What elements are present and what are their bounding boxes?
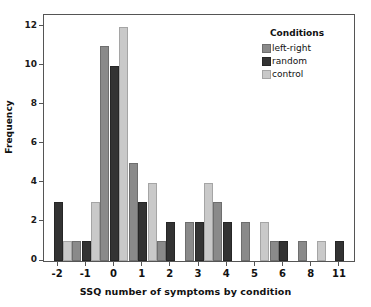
bar-left-right-4: [213, 202, 222, 261]
x-tick-label: 1: [128, 268, 156, 279]
histogram-figure: Frequency 024681012 -2-10123456811 SSQ n…: [0, 0, 371, 307]
bar-left-right-2: [157, 241, 166, 261]
x-tick-label: -2: [43, 268, 71, 279]
y-tick-label: 2: [31, 215, 37, 226]
legend-swatch-control: [262, 70, 271, 79]
legend-entries: left-rightrandomcontrol: [262, 42, 348, 80]
x-tick-label: 2: [156, 268, 184, 279]
legend-title: Conditions: [270, 28, 348, 38]
bar-control-8: [317, 241, 326, 261]
y-tick-label: 0: [31, 254, 37, 265]
x-tick-mark: [141, 262, 142, 266]
legend-label-left-right: left-right: [272, 43, 311, 53]
bar-random--1: [82, 241, 91, 261]
x-tick-label: 11: [325, 268, 353, 279]
x-tick-label: 4: [212, 268, 240, 279]
bar-random-2: [166, 222, 175, 261]
bar-random--2: [54, 202, 63, 261]
x-tick-mark: [57, 262, 58, 266]
x-tick-label: 3: [184, 268, 212, 279]
x-tick-label: 5: [240, 268, 268, 279]
x-tick-mark: [198, 262, 199, 266]
y-tick-label: 8: [31, 98, 37, 109]
x-tick-mark: [85, 262, 86, 266]
bar-control-0: [119, 27, 128, 261]
bar-left-right-0: [100, 46, 109, 261]
bar-left-right--1: [72, 241, 81, 261]
x-axis: -2-10123456811: [43, 262, 355, 306]
bar-left-right-6: [270, 241, 279, 261]
bar-control--2: [63, 241, 72, 261]
x-tick-mark: [226, 262, 227, 266]
y-tick-label: 6: [31, 137, 37, 148]
legend-item-random: random: [262, 55, 348, 67]
bar-random-11: [335, 241, 344, 261]
x-tick-label: 8: [297, 268, 325, 279]
x-tick-mark: [338, 262, 339, 266]
y-axis-title: Frequency: [4, 87, 14, 167]
bar-left-right-1: [129, 163, 138, 261]
bar-random-4: [223, 222, 232, 261]
legend-label-random: random: [272, 56, 307, 66]
bar-left-right-8: [298, 241, 307, 261]
y-tick-label: 4: [31, 176, 37, 187]
legend: Conditions left-rightrandomcontrol: [262, 28, 348, 81]
bar-random-0: [110, 66, 119, 261]
legend-item-control: control: [262, 68, 348, 80]
x-tick-mark: [254, 262, 255, 266]
bar-control-5: [260, 222, 269, 261]
bar-random-3: [195, 222, 204, 261]
bar-control--1: [91, 202, 100, 261]
legend-swatch-random: [262, 57, 271, 66]
x-tick-mark: [282, 262, 283, 266]
y-tick-label: 10: [24, 59, 37, 70]
legend-item-left-right: left-right: [262, 42, 348, 54]
y-tick-label: 12: [24, 20, 37, 31]
x-tick-mark: [169, 262, 170, 266]
bar-random-1: [138, 202, 147, 261]
x-tick-mark: [113, 262, 114, 266]
x-tick-mark: [310, 262, 311, 266]
bar-left-right-3: [185, 222, 194, 261]
x-tick-label: 6: [269, 268, 297, 279]
y-axis: Frequency 024681012: [0, 14, 43, 262]
x-tick-label: 0: [99, 268, 127, 279]
legend-swatch-left-right: [262, 44, 271, 53]
legend-label-control: control: [272, 69, 303, 79]
x-axis-title: SSQ number of symptoms by condition: [0, 286, 371, 297]
x-tick-label: -1: [71, 268, 99, 279]
bar-control-1: [148, 183, 157, 261]
bar-left-right-5: [241, 222, 250, 261]
bar-control-3: [204, 183, 213, 261]
bar-random-6: [279, 241, 288, 261]
